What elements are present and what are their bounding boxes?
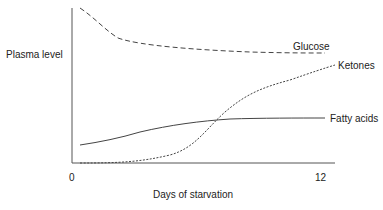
x-axis-label: Days of starvation: [153, 189, 233, 200]
glucose-label: Glucose: [293, 41, 330, 52]
ketones-line: [80, 65, 335, 163]
chart: Plasma level Glucose Ketones Fatty acids…: [0, 0, 383, 210]
fatty-acids-label: Fatty acids: [330, 113, 378, 124]
fatty-acids-line: [80, 118, 325, 145]
glucose-line: [80, 8, 325, 53]
y-axis-label: Plasma level: [6, 49, 63, 60]
x-tick-12: 12: [315, 172, 327, 183]
x-tick-0: 0: [69, 172, 75, 183]
ketones-label: Ketones: [338, 60, 375, 71]
